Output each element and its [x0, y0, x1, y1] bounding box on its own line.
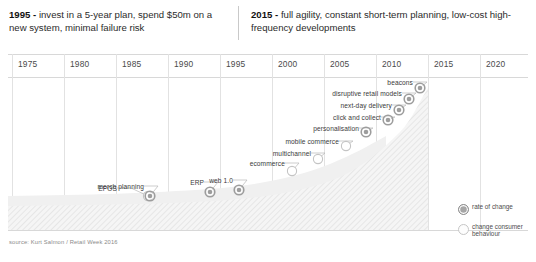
marker-click-and-collect[interactable]	[383, 115, 393, 125]
label-erp: ERP	[190, 179, 204, 186]
header-right-text: full agility, constant short-term planni…	[251, 9, 511, 33]
label-multichannel: multichannel	[273, 150, 311, 157]
header: 1995 - invest in a 5-year plan, spend $5…	[0, 0, 536, 54]
label-merch-planning: merch planning	[98, 183, 144, 190]
header-right-statement: 2015 - full agility, constant short-term…	[251, 8, 529, 34]
marker-next-day-delivery[interactable]	[394, 105, 404, 115]
label-ecommerce: ecommerce	[250, 160, 285, 167]
timeline-chart: 1975198019851990199520002005201020152020	[0, 54, 536, 232]
header-divider	[238, 6, 239, 40]
label-next-day-delivery: next-day delivery	[340, 102, 392, 109]
marker-mobile-commerce[interactable]	[341, 141, 350, 150]
legend-label-change-consumer-behaviour: change consumer behaviour	[472, 223, 536, 238]
legend-dot-change-consumer-behaviour-icon	[458, 224, 469, 235]
label-web-1-0: web 1.0	[209, 177, 233, 184]
label-click-and-collect: click and collect	[333, 114, 381, 121]
label-disruptive-retail-models: disruptive retail models	[332, 90, 402, 97]
label-personalisation: personalisation	[313, 125, 359, 132]
marker-personalisation[interactable]	[361, 127, 371, 137]
label-mobile-commerce: mobile commerce	[285, 138, 339, 145]
infographic-root: 1995 - invest in a 5-year plan, spend $5…	[0, 0, 536, 262]
marker-ecommerce[interactable]	[287, 166, 296, 175]
legend-item-rate-of-change: rate of change	[458, 203, 536, 216]
legend-label-rate-of-change: rate of change	[472, 203, 513, 210]
plot-area	[0, 54, 536, 230]
legend-item-change-consumer-behaviour: change consumer behaviour	[458, 223, 536, 236]
plot-svg	[0, 54, 536, 230]
marker-multichannel[interactable]	[313, 154, 322, 163]
header-right-year: 2015 -	[251, 9, 281, 20]
legend: rate of change change consumer behaviour	[458, 203, 536, 243]
header-left-statement: 1995 - invest in a 5-year plan, spend $5…	[9, 8, 221, 34]
header-left-year: 1995 -	[9, 9, 39, 20]
header-left-text: invest in a 5-year plan, spend $50m on a…	[9, 9, 212, 33]
label-beacons: beacons	[387, 79, 413, 86]
axis-rule-bottom	[8, 230, 528, 231]
legend-dot-rate-of-change-icon	[458, 204, 469, 215]
marker-disruptive-retail-models[interactable]	[404, 94, 414, 104]
source-note: source: Kurt Salmon / Retail Week 2016	[9, 239, 118, 245]
marker-beacons[interactable]	[415, 83, 425, 93]
